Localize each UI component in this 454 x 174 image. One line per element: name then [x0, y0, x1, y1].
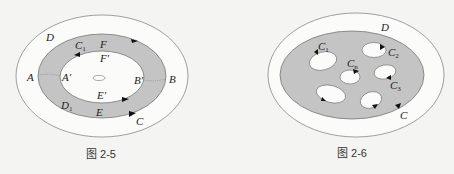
label-C3: C3: [390, 80, 401, 93]
figure-2-6-caption: 图 2-6: [337, 148, 367, 159]
label-C: C: [400, 110, 407, 121]
label-C1: C1: [318, 41, 329, 54]
diagram-stage: D C1 F F′ A A′ B′ B E′ D1 E C D C1 C2 Cn…: [0, 0, 454, 174]
hole-C2: [362, 43, 386, 58]
label-E: E: [96, 107, 103, 118]
label-Cn: Cn: [347, 58, 358, 71]
label-F-prime: F′: [100, 53, 109, 64]
figure-2-6-graphics: [268, 13, 444, 137]
label-C: C: [136, 116, 143, 127]
label-A: A: [27, 72, 34, 83]
figure-2-5-graphics: [16, 15, 188, 137]
label-B-prime: B′: [134, 75, 143, 86]
label-F: F: [100, 39, 107, 50]
label-D: D: [46, 32, 54, 43]
label-C2: C2: [388, 47, 399, 60]
label-D1: D1: [61, 100, 72, 113]
label-D: D: [381, 22, 389, 33]
label-A-prime: A′: [62, 72, 71, 83]
label-E-prime: E′: [97, 90, 106, 101]
figure-2-5-caption: 图 2-5: [86, 149, 116, 160]
label-B: B: [169, 74, 176, 85]
label-C1: C1: [75, 40, 86, 53]
